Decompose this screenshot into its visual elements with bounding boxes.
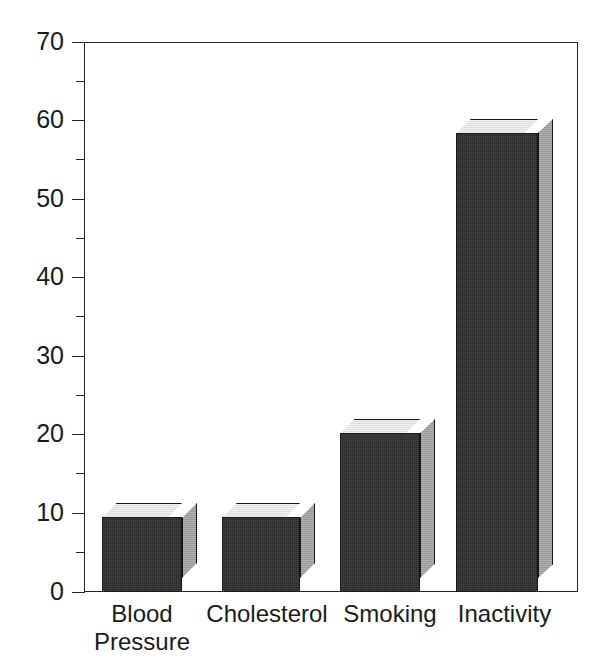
x-axis-label-cholesterol: Cholesterol [202, 600, 332, 628]
bar-top-face [340, 419, 420, 434]
x-axis-label-inactivity: Inactivity [447, 600, 562, 628]
x-axis-label-blood-pressure: Blood Pressure [82, 600, 202, 656]
y-axis-label-50: 50 [0, 186, 64, 211]
bar-side-face [182, 503, 197, 578]
y-axis-label-70: 70 [0, 29, 64, 54]
y-axis-label-40: 40 [0, 264, 64, 289]
y-axis-tick-20 [72, 434, 85, 435]
bar-front-face [222, 517, 300, 592]
bar-front-face [340, 433, 420, 592]
bar-front-face [102, 517, 182, 592]
bar-side-face [300, 503, 315, 578]
bar-chart: 70 60 50 40 30 20 10 0 [0, 0, 602, 670]
bar-top-face [456, 119, 538, 134]
bar-front-face [456, 133, 538, 592]
bar-side-face [538, 119, 553, 578]
y-axis-minor-tick-65 [76, 81, 85, 82]
y-axis-minor-tick-15 [76, 473, 85, 474]
y-axis-label-0: 0 [0, 579, 64, 604]
bar-smoking [340, 419, 435, 592]
y-axis-tick-60 [72, 120, 85, 121]
y-axis-tick-10 [72, 513, 85, 514]
y-axis-minor-tick-5 [76, 552, 85, 553]
y-axis-label-10: 10 [0, 500, 64, 525]
y-axis-tick-0 [72, 592, 85, 593]
bar-inactivity [456, 119, 553, 592]
y-axis-minor-tick-25 [76, 395, 85, 396]
y-axis-tick-40 [72, 277, 85, 278]
y-axis-label-60: 60 [0, 107, 64, 132]
bar-side-face [420, 419, 435, 578]
bar-blood-pressure [102, 503, 197, 592]
bar-top-face [102, 503, 182, 518]
y-axis-tick-50 [72, 199, 85, 200]
y-axis-minor-tick-35 [76, 316, 85, 317]
y-axis-tick-70 [72, 42, 85, 43]
y-axis-label-30: 30 [0, 343, 64, 368]
y-axis-label-20: 20 [0, 421, 64, 446]
y-axis-minor-tick-55 [76, 159, 85, 160]
bar-top-face [222, 503, 300, 518]
x-axis-label-smoking: Smoking [335, 600, 445, 628]
bar-cholesterol [222, 503, 315, 592]
y-axis-tick-30 [72, 356, 85, 357]
y-axis-minor-tick-45 [76, 238, 85, 239]
